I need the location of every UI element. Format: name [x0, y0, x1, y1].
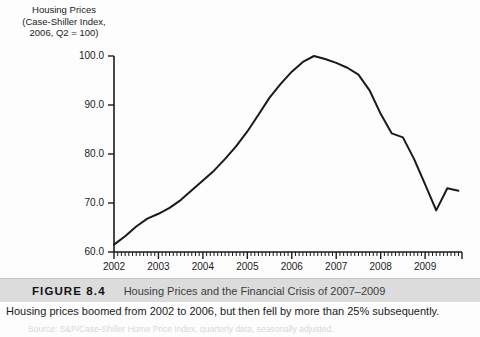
y-tick-label: 70.0	[48, 197, 104, 208]
x-tick-label: 2008	[361, 261, 401, 272]
x-tick-label: 2002	[94, 261, 134, 272]
figure-number-label: FIGURE 8.4	[32, 285, 106, 297]
x-tick-label: 2006	[272, 261, 312, 272]
x-tick-label: 2007	[316, 261, 356, 272]
y-tick-label: 90.0	[48, 99, 104, 110]
figure-caption-bar: FIGURE 8.4 Housing Prices and the Financ…	[0, 278, 480, 302]
chart-plot	[0, 0, 480, 278]
x-tick-label: 2009	[405, 261, 445, 272]
x-tick-label: 2005	[227, 261, 267, 272]
figure-source-note: Source: S&P/Case-Shiller Home Price Inde…	[28, 324, 478, 334]
x-tick-label: 2004	[183, 261, 223, 272]
figure-caption-text: Housing prices boomed from 2002 to 2006,…	[6, 305, 480, 317]
chart-axes	[114, 56, 462, 252]
figure-title-label: Housing Prices and the Financial Crisis …	[124, 285, 386, 297]
y-tick-label: 60.0	[48, 246, 104, 257]
y-tick-label: 80.0	[48, 148, 104, 159]
x-tick-label: 2003	[138, 261, 178, 272]
x-axis-minor-ticks	[114, 252, 462, 259]
y-axis-ticks	[108, 56, 114, 252]
figure-page: Housing Prices (Case-Shiller Index, 2006…	[0, 0, 480, 337]
price-line-series	[114, 56, 458, 245]
chart-figure: Housing Prices (Case-Shiller Index, 2006…	[0, 0, 480, 278]
y-tick-label: 100.0	[48, 50, 104, 61]
